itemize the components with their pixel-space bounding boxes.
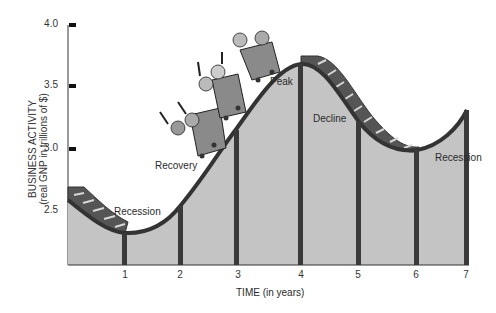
x-tick-label-4: 4 bbox=[291, 269, 311, 280]
support-bar-year-1 bbox=[122, 233, 127, 265]
phase-label-peak: Peak bbox=[270, 76, 293, 87]
support-bar-year-7 bbox=[464, 110, 469, 265]
x-tick-label-5: 5 bbox=[348, 269, 368, 280]
rider-head-icon bbox=[255, 31, 269, 45]
rider-head-icon bbox=[185, 113, 199, 127]
rider-head-icon bbox=[199, 77, 213, 91]
phase-label-recovery: Recovery bbox=[155, 160, 197, 171]
y-tick-mark-3.0 bbox=[69, 147, 76, 151]
coaster-car-2 bbox=[198, 52, 246, 121]
y-tick-label-4.0: 4.0 bbox=[28, 18, 58, 29]
business-cycle-diagram bbox=[0, 0, 496, 313]
coaster-car-3 bbox=[233, 31, 280, 83]
rider-head-icon bbox=[233, 33, 247, 47]
x-tick-label-6: 6 bbox=[406, 269, 426, 280]
x-tick-label-2: 2 bbox=[170, 269, 190, 280]
x-tick-label-7: 7 bbox=[456, 269, 476, 280]
y-axis-title: BUSINESS ACTIVITY (real GNP in trillions… bbox=[27, 59, 49, 239]
support-bar-year-5 bbox=[356, 122, 361, 265]
support-bar-year-6 bbox=[414, 150, 419, 265]
y-tick-mark-4.0 bbox=[69, 23, 76, 27]
x-axis-title: TIME (in years) bbox=[236, 287, 304, 298]
phase-label-decline: Decline bbox=[313, 113, 346, 124]
rider-head-icon bbox=[211, 65, 225, 79]
support-bar-year-4 bbox=[298, 64, 303, 265]
y-tick-mark-3.5 bbox=[69, 84, 76, 88]
y-axis-title-sub: (real GNP in trillions of $) bbox=[38, 59, 49, 239]
y-axis-title-main: BUSINESS ACTIVITY bbox=[27, 59, 38, 239]
x-tick-label-3: 3 bbox=[228, 269, 248, 280]
x-tick-label-1: 1 bbox=[115, 269, 135, 280]
support-bar-year-3 bbox=[234, 130, 239, 265]
support-bar-year-2 bbox=[178, 206, 183, 265]
phase-label-recession-1: Recession bbox=[114, 206, 161, 217]
rider-head-icon bbox=[171, 121, 185, 135]
coaster-car-1 bbox=[160, 102, 226, 159]
phase-label-recession-2: Recession bbox=[435, 152, 482, 163]
